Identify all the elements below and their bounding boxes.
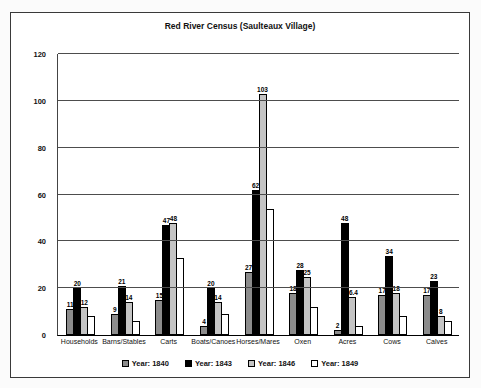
legend-item: Year: 1843 [185, 359, 232, 368]
plot-wrap: 020406080100120 112012921141547484201427… [19, 54, 459, 336]
category-label: Oxen [280, 338, 325, 345]
bar-value-label: 16.4 [345, 289, 358, 296]
category-label: Barns/Stables [102, 338, 147, 345]
category-label: Horses/Mares [236, 338, 281, 345]
bar [399, 316, 407, 335]
legend-label: Year: 1843 [195, 359, 232, 368]
y-tick-label: 60 [14, 191, 46, 200]
gridline [58, 194, 459, 195]
y-tick-label: 120 [14, 50, 46, 59]
bar [266, 209, 274, 335]
category-label: Boats/Canoes [191, 338, 236, 345]
bar-value-label: 28 [296, 262, 303, 269]
bar [310, 307, 318, 335]
bar-value-label: 14 [214, 294, 221, 301]
bar-value-label: 23 [430, 273, 437, 280]
chart-title: Red River Census (Saulteaux Village) [11, 21, 469, 31]
legend-swatch [248, 360, 255, 367]
legend-label: Year: 1849 [321, 359, 358, 368]
bar [132, 321, 140, 335]
bar-value-label: 48 [170, 215, 177, 222]
bar-value-label: 20 [74, 280, 81, 287]
bar [221, 314, 229, 335]
plot-area: 1120129211415474842014276210318282524816… [57, 54, 459, 336]
gridline [58, 240, 459, 241]
bar-value-label: 25 [303, 269, 310, 276]
bar [444, 321, 452, 335]
y-axis: 020406080100120 [19, 54, 51, 336]
legend-item: Year: 1840 [122, 359, 169, 368]
category-label: Cows [370, 338, 415, 345]
gridline [58, 287, 459, 288]
gridline [58, 100, 459, 101]
category-label: Acres [325, 338, 370, 345]
legend-item: Year: 1846 [248, 359, 295, 368]
chart-frame: Red River Census (Saulteaux Village) 020… [10, 12, 470, 378]
bar-value-label: 18 [393, 285, 400, 292]
bar-value-label: 4 [202, 318, 206, 325]
bar [176, 258, 184, 335]
legend-label: Year: 1846 [258, 359, 295, 368]
bar-value-label: 14 [125, 294, 132, 301]
category-label: Calves [414, 338, 459, 345]
legend-swatch [185, 360, 192, 367]
bar-value-label: 21 [118, 278, 125, 285]
y-tick-label: 0 [14, 331, 46, 340]
legend: Year: 1840Year: 1843Year: 1846Year: 1849 [11, 359, 469, 368]
bar-value-label: 8 [439, 308, 443, 315]
bar-value-label: 2 [336, 322, 340, 329]
category-label: Households [57, 338, 102, 345]
y-tick-label: 40 [14, 237, 46, 246]
bar-value-label: 12 [81, 299, 88, 306]
gridline [58, 53, 459, 54]
bar-value-label: 9 [113, 306, 117, 313]
bar [355, 326, 363, 335]
bar-value-label: 103 [257, 86, 268, 93]
bar-value-label: 48 [341, 215, 348, 222]
category-label: Carts [146, 338, 191, 345]
y-tick-label: 20 [14, 284, 46, 293]
x-axis-labels: HouseholdsBarns/StablesCartsBoats/Canoes… [57, 338, 459, 345]
bar [87, 316, 95, 335]
bar-value-label: 20 [207, 280, 214, 287]
gridline [58, 147, 459, 148]
y-tick-label: 80 [14, 144, 46, 153]
legend-label: Year: 1840 [132, 359, 169, 368]
legend-swatch [122, 360, 129, 367]
y-tick-label: 100 [14, 97, 46, 106]
legend-item: Year: 1849 [311, 359, 358, 368]
bar-value-label: 34 [386, 248, 393, 255]
legend-swatch [311, 360, 318, 367]
